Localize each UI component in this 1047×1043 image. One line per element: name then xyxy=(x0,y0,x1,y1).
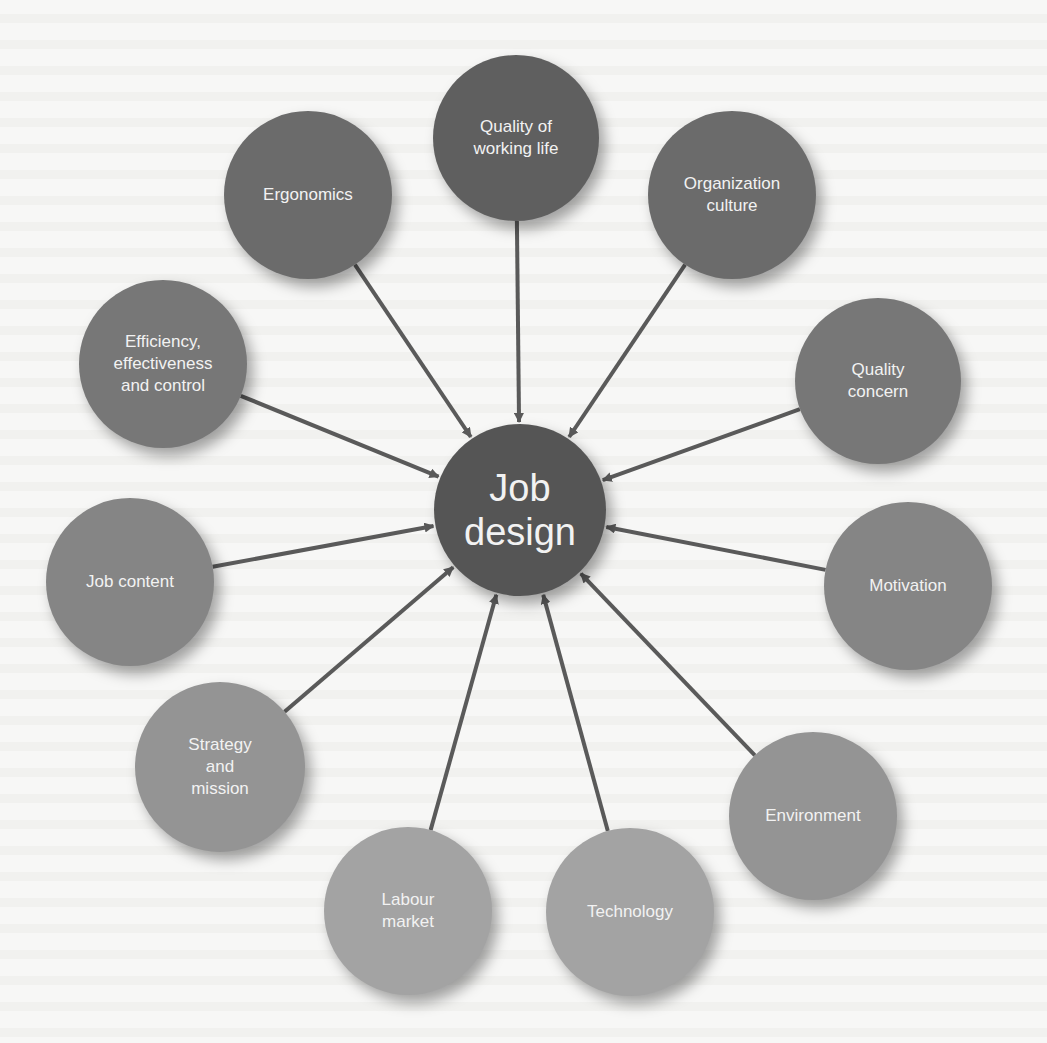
node-label: Efficiency, effectiveness and control xyxy=(114,331,213,397)
node-label: Technology xyxy=(587,901,673,923)
node-label: Ergonomics xyxy=(263,184,353,206)
node-environment: Environment xyxy=(729,732,897,900)
arrow-quality-concern-to-job-design xyxy=(603,409,800,480)
arrow-environment-to-job-design xyxy=(581,574,755,756)
arrow-ergonomics-to-job-design xyxy=(355,265,471,437)
node-quality-concern: Quality concern xyxy=(795,298,961,464)
node-efficiency-effectiveness-control: Efficiency, effectiveness and control xyxy=(79,280,247,448)
node-label: Job design xyxy=(464,466,576,554)
node-label: Job content xyxy=(86,571,174,593)
node-ergonomics: Ergonomics xyxy=(224,111,392,279)
node-labour-market: Labour market xyxy=(324,827,492,995)
node-quality-of-working-life: Quality of working life xyxy=(433,55,599,221)
node-label: Quality of working life xyxy=(473,116,558,160)
arrow-labour-market-to-job-design xyxy=(431,595,497,830)
node-organization-culture: Organization culture xyxy=(648,111,816,279)
arrow-motivation-to-job-design xyxy=(606,527,825,570)
arrow-quality-of-working-life-to-job-design xyxy=(517,221,519,422)
node-motivation: Motivation xyxy=(824,502,992,670)
node-job-design: Job design xyxy=(434,424,606,596)
node-technology: Technology xyxy=(546,828,714,996)
arrow-technology-to-job-design xyxy=(543,595,608,831)
node-label: Motivation xyxy=(869,575,946,597)
node-label: Strategy and mission xyxy=(188,734,251,800)
node-job-content: Job content xyxy=(46,498,214,666)
node-label: Labour market xyxy=(382,889,435,933)
node-label: Quality concern xyxy=(848,359,908,403)
arrow-organization-culture-to-job-design xyxy=(569,265,685,437)
arrow-efficiency-effectiveness-control-to-job-design xyxy=(241,396,439,477)
arrow-job-content-to-job-design xyxy=(213,526,434,567)
node-strategy-and-mission: Strategy and mission xyxy=(135,682,305,852)
arrow-strategy-and-mission-to-job-design xyxy=(285,567,454,711)
node-label: Organization culture xyxy=(684,173,780,217)
node-label: Environment xyxy=(765,805,860,827)
